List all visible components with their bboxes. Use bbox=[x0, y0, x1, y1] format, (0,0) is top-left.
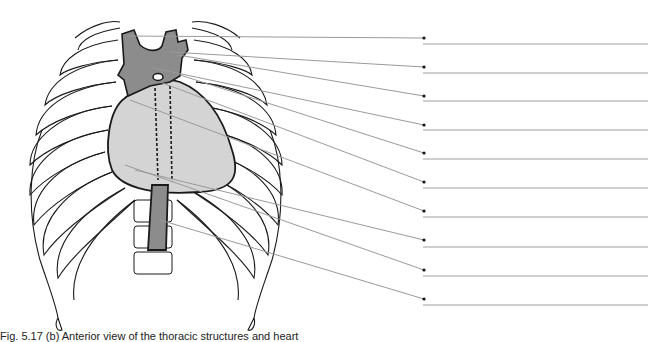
leader-dot-9 bbox=[422, 268, 425, 271]
figure-caption: Fig. 5.17 (b) Anterior view of the thora… bbox=[0, 330, 298, 342]
leader-dot-2 bbox=[422, 65, 425, 68]
leader-line-10 bbox=[160, 220, 424, 299]
answer-blank-lines bbox=[423, 44, 648, 305]
leader-dot-8 bbox=[422, 238, 425, 241]
leader-dot-10 bbox=[422, 297, 425, 300]
leader-line-8 bbox=[135, 170, 424, 240]
leader-dot-7 bbox=[422, 209, 425, 212]
leader-dot-5 bbox=[422, 151, 425, 154]
leader-dot-4 bbox=[422, 123, 425, 126]
leader-line-2 bbox=[170, 52, 424, 67]
leader-dot-1 bbox=[422, 36, 425, 39]
leader-dot-6 bbox=[422, 180, 425, 183]
esophagus-aorta-descending bbox=[148, 185, 168, 250]
leader-dot-3 bbox=[422, 94, 425, 97]
leader-line-3 bbox=[178, 55, 424, 96]
heart bbox=[108, 80, 235, 193]
